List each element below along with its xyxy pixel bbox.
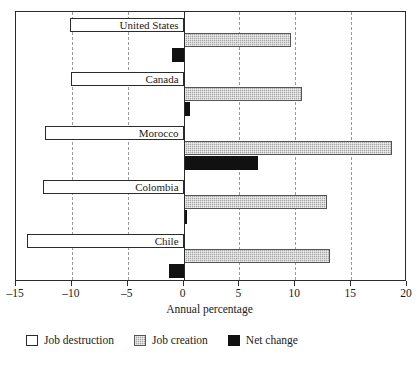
bar-creation-canada: [184, 87, 302, 101]
legend-swatch-net: [228, 335, 240, 346]
bar-destruction-chile: Chile: [27, 234, 183, 248]
tick-mark-10: [294, 281, 295, 286]
category-label-chile: Chile: [155, 236, 179, 247]
legend-swatch-destruction: [26, 335, 38, 346]
legend-swatch-creation: [134, 335, 146, 346]
legend-label-creation: Job creation: [152, 334, 208, 346]
bar-net-morocco: [184, 156, 259, 170]
tick-label--10: –10: [51, 287, 91, 300]
bar-creation-colombia: [184, 195, 327, 209]
bar-destruction-canada: Canada: [71, 72, 184, 86]
tick-mark--10: [71, 281, 72, 286]
job-flows-bar-chart: United StatesCanadaMoroccoColombiaChile …: [0, 0, 419, 365]
zero-axis-line: [184, 12, 185, 280]
plot-area: United StatesCanadaMoroccoColombiaChile: [15, 11, 406, 281]
tick-label--5: –5: [107, 287, 147, 300]
bar-destruction-united-states: United States: [70, 18, 184, 32]
legend-label-destruction: Job destruction: [44, 334, 114, 346]
tick-mark-15: [350, 281, 351, 286]
chart-legend: Job destructionJob creationNet change: [26, 334, 298, 346]
tick-mark-5: [238, 281, 239, 286]
bar-creation-united-states: [184, 33, 291, 47]
category-label-colombia: Colombia: [135, 182, 178, 193]
tick-label-5: 5: [218, 287, 258, 300]
bar-destruction-colombia: Colombia: [43, 180, 184, 194]
bars-layer: United StatesCanadaMoroccoColombiaChile: [16, 12, 405, 280]
category-label-canada: Canada: [146, 74, 179, 85]
legend-item-creation[interactable]: Job creation: [134, 334, 208, 346]
tick-mark--15: [15, 281, 16, 286]
tick-label-10: 10: [274, 287, 314, 300]
bar-net-canada: [184, 102, 191, 116]
tick-mark-20: [406, 281, 407, 286]
legend-label-net: Net change: [246, 334, 298, 346]
legend-item-destruction[interactable]: Job destruction: [26, 334, 114, 346]
bar-creation-morocco: [184, 141, 393, 155]
tick-label-15: 15: [330, 287, 370, 300]
tick-mark--5: [127, 281, 128, 286]
x-axis-title: Annual percentage: [0, 303, 419, 315]
bar-creation-chile: [184, 249, 330, 263]
bar-net-united-states: [172, 48, 183, 62]
bar-net-chile: [169, 264, 184, 278]
tick-label--15: –15: [0, 287, 35, 300]
tick-mark-0: [183, 281, 184, 286]
tick-label-0: 0: [163, 287, 203, 300]
category-label-morocco: Morocco: [139, 128, 179, 139]
tick-label-20: 20: [386, 287, 419, 300]
legend-item-net[interactable]: Net change: [228, 334, 298, 346]
category-label-united-states: United States: [120, 20, 179, 31]
bar-destruction-morocco: Morocco: [45, 126, 184, 140]
